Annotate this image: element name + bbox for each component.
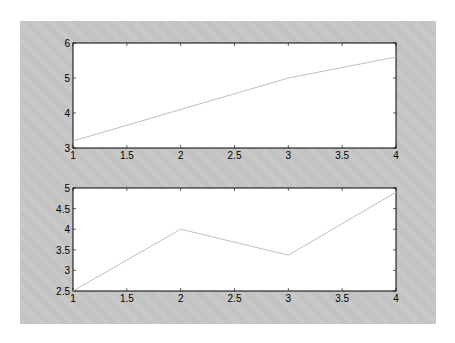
axes-area	[73, 188, 396, 291]
axes-area	[73, 43, 396, 148]
x-tick-label: 3	[286, 293, 292, 304]
top-subplot: 11.522.533.543456	[64, 38, 399, 161]
y-tick-label: 4	[64, 108, 70, 119]
y-tick-label: 3	[64, 265, 70, 276]
x-tick-label: 1.5	[120, 150, 134, 161]
y-tick-label: 3.5	[56, 245, 70, 256]
x-tick-label: 4	[393, 293, 399, 304]
y-tick-label: 2.5	[56, 286, 70, 297]
y-tick-label: 5	[64, 183, 70, 194]
x-tick-label: 1.5	[120, 293, 134, 304]
y-tick-label: 4	[64, 224, 70, 235]
y-tick-label: 3	[64, 143, 70, 154]
y-tick-label: 6	[64, 38, 70, 49]
y-tick-label: 4.5	[56, 204, 70, 215]
x-tick-label: 2.5	[228, 293, 242, 304]
x-tick-label: 2	[178, 293, 184, 304]
x-tick-label: 2	[178, 150, 184, 161]
x-tick-label: 3.5	[335, 293, 349, 304]
x-tick-label: 1	[70, 293, 76, 304]
x-tick-label: 1	[70, 150, 76, 161]
figure-canvas: 11.522.533.543456 11.522.533.542.533.544…	[0, 0, 455, 343]
x-tick-label: 3	[286, 150, 292, 161]
x-tick-label: 3.5	[335, 150, 349, 161]
x-tick-label: 2.5	[228, 150, 242, 161]
y-tick-label: 5	[64, 73, 70, 84]
x-tick-label: 4	[393, 150, 399, 161]
bottom-subplot: 11.522.533.542.533.544.55	[56, 183, 399, 304]
